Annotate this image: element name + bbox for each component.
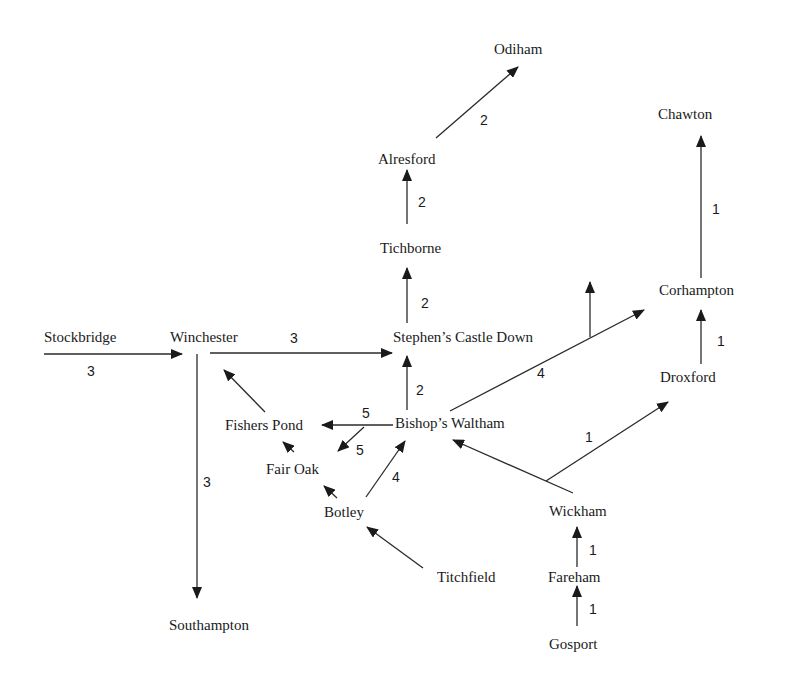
weight-scd-tichborne: 2 [421,295,429,311]
edge-alresford-odiham [436,67,518,138]
weight-tichborne-alresford: 2 [418,194,426,210]
weight-wickham-droxford: 1 [585,429,593,445]
edges [44,67,701,626]
node-titchfield: Titchfield [437,569,496,585]
edge-fair-oak-fishers-pond [283,442,294,452]
edge-botley-fair-oak [324,486,337,498]
node-fareham: Fareham [548,569,601,585]
node-stephens-castle-down: Stephen’s Castle Down [393,329,533,345]
node-chawton: Chawton [658,106,713,122]
node-winchester: Winchester [170,329,238,345]
weight-fareham-wickham: 1 [589,542,597,558]
weight-bw-fair-oak: 5 [356,442,364,458]
edge-wickham-bw [453,440,573,493]
edge-titchfield-botley [367,527,423,568]
edge-fishers-pond-winchester [224,370,265,412]
node-gosport: Gosport [549,636,598,652]
weight-gosport-fareham: 1 [589,601,597,617]
edge-wickham-droxford [546,402,668,481]
weight-bw-scd: 2 [416,382,424,398]
weight-droxford-corhampton: 1 [717,333,725,349]
node-botley: Botley [324,504,364,520]
weight-botley-bw: 4 [392,469,400,485]
node-wickham: Wickham [549,503,607,519]
weight-bw-fishers-pond: 5 [362,405,370,421]
node-southampton: Southampton [169,617,250,633]
edge-bw-corhampton [450,310,644,411]
nodes: Odiham Chawton Alresford Tichborne Corha… [44,41,734,652]
node-fair-oak: Fair Oak [266,461,319,477]
weight-alresford-odiham: 2 [480,112,488,128]
node-bishops-waltham: Bishop’s Waltham [395,415,505,431]
node-corhampton: Corhampton [659,282,734,298]
route-network-diagram: Odiham Chawton Alresford Tichborne Corha… [0,0,795,685]
weight-stockbridge-winchester: 3 [87,363,95,379]
weight-corhampton-chawton: 1 [712,201,720,217]
node-droxford: Droxford [660,369,716,385]
weight-winchester-southampton: 3 [203,474,211,490]
weight-bw-corhampton: 4 [537,365,545,381]
node-odiham: Odiham [494,41,543,57]
weight-winchester-scd: 3 [290,330,298,346]
node-stockbridge: Stockbridge [44,329,117,345]
edge-weights: 2 2 2 1 1 4 3 3 3 2 5 5 4 1 1 1 [87,112,725,617]
node-tichborne: Tichborne [380,240,441,256]
node-alresford: Alresford [378,151,436,167]
node-fishers-pond: Fishers Pond [225,417,303,433]
